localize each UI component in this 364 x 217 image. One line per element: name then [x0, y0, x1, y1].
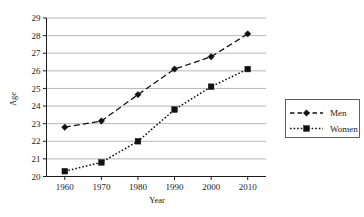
data-point-marker [245, 66, 251, 72]
data-point-marker [172, 107, 178, 113]
data-point-marker [62, 124, 68, 130]
chart-container: 20212223242526272829 1960197019801990200… [0, 0, 364, 217]
y-tick-label: 24 [32, 101, 42, 111]
data-series [62, 31, 251, 174]
data-point-marker [135, 138, 141, 144]
legend-label: Men [330, 108, 347, 118]
y-tick-label: 26 [32, 66, 42, 76]
y-tick-label: 29 [32, 13, 42, 23]
y-axis-title: Age [8, 92, 18, 106]
x-tick-label: 1970 [92, 182, 111, 192]
x-tick-label: 1980 [129, 182, 148, 192]
data-point-marker [245, 31, 251, 37]
y-tick-label: 28 [32, 31, 42, 41]
y-tick-label: 20 [32, 172, 42, 182]
x-tick-label: 1990 [166, 182, 185, 192]
data-point-marker [208, 84, 214, 90]
x-tick-labels: 196019701980199020002010 [56, 182, 257, 192]
legend-label: Women [330, 124, 358, 134]
y-tick-label: 23 [32, 119, 42, 129]
data-point-marker [208, 54, 214, 60]
y-tick-marks [43, 18, 47, 177]
x-tick-label: 1960 [56, 182, 75, 192]
legend: MenWomen [286, 100, 360, 138]
legend-marker-sample [304, 126, 310, 132]
data-point-marker [62, 168, 68, 174]
y-tick-labels: 20212223242526272829 [32, 13, 42, 182]
x-tick-label: 2000 [202, 182, 221, 192]
y-tick-label: 27 [32, 48, 42, 58]
series-line [65, 69, 248, 171]
y-tick-label: 25 [32, 84, 42, 94]
x-axis-title: Year [149, 195, 165, 205]
x-tick-marks [65, 177, 248, 181]
line-chart: 20212223242526272829 1960197019801990200… [0, 0, 364, 217]
series-line [65, 34, 248, 127]
y-tick-label: 21 [32, 154, 41, 164]
y-tick-label: 22 [32, 136, 41, 146]
x-tick-label: 2010 [239, 182, 258, 192]
gridlines [47, 18, 267, 159]
data-point-marker [99, 160, 105, 166]
